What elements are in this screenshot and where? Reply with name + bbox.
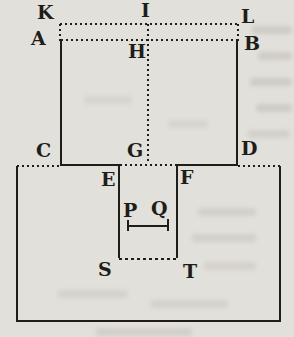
point-label-i: I bbox=[141, 1, 150, 20]
point-label-k: K bbox=[37, 3, 54, 22]
point-label-f: F bbox=[180, 168, 194, 187]
point-label-l: L bbox=[241, 7, 254, 26]
point-label-p: P bbox=[123, 201, 137, 220]
point-label-q: Q bbox=[151, 199, 168, 218]
point-label-a: A bbox=[31, 29, 46, 48]
point-label-b: B bbox=[244, 34, 260, 53]
point-label-e: E bbox=[101, 170, 115, 189]
point-label-t: T bbox=[183, 262, 197, 281]
point-label-s: S bbox=[98, 260, 112, 279]
point-label-d: D bbox=[241, 139, 257, 158]
point-label-c: C bbox=[36, 141, 51, 160]
point-label-g: G bbox=[127, 141, 143, 160]
scanned-book-page: K I L A H B C G D E F P Q S T bbox=[0, 0, 294, 337]
point-label-h: H bbox=[128, 42, 146, 61]
